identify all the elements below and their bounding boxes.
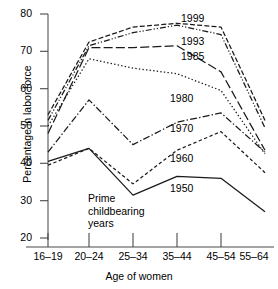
prime-childbearing-years-annotation: Prime childbearing years: [88, 192, 145, 230]
x-tick-label-25-34: 25–34: [111, 250, 155, 262]
series-line-1950: [48, 148, 265, 211]
series-line-1999: [48, 23, 265, 120]
line-chart-plot: [0, 0, 278, 289]
series-label-1999: 1999: [181, 12, 204, 24]
chart-container: 80 70 60 50 40 30 20 16–19 20–24 25–34 3…: [0, 0, 278, 289]
data-series-group: [48, 23, 265, 212]
series-label-1960: 1960: [170, 152, 193, 164]
y-tick-label-80: 80: [12, 7, 32, 19]
x-axis-ticks: [48, 233, 221, 247]
annotation-line-1: Prime: [88, 192, 145, 205]
series-label-1993: 1993: [181, 35, 204, 47]
axis-lines: [26, 14, 274, 247]
x-tick-label-35-44: 35–44: [155, 250, 199, 262]
series-label-1985: 1985: [181, 50, 204, 62]
series-label-1950: 1950: [170, 182, 193, 194]
series-label-1970: 1970: [170, 122, 193, 134]
series-line-1985: [48, 46, 265, 151]
y-tick-label-20: 20: [12, 231, 32, 243]
series-label-1980: 1980: [170, 92, 193, 104]
annotation-line-2: childbearing: [88, 205, 145, 218]
series-line-1970: [48, 100, 265, 152]
x-tick-label-55-64: 55–64: [232, 250, 276, 262]
x-tick-label-20-24: 20–24: [67, 250, 111, 262]
x-axis-title: Age of women: [0, 270, 278, 282]
annotation-line-3: years: [88, 217, 145, 230]
series-line-1993: [48, 25, 265, 128]
y-axis-ticks: [40, 14, 48, 238]
series-line-1980: [48, 59, 265, 154]
x-tick-label-16-19: 16–19: [26, 250, 70, 262]
y-axis-title: Percentage in labor force: [21, 39, 33, 209]
series-line-1960: [48, 132, 265, 184]
